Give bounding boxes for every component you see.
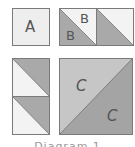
hst-b-2: [96, 8, 134, 46]
label-a: A: [25, 20, 35, 35]
hst-left-bottom: [12, 96, 50, 135]
diagram-caption: Diagram 1: [0, 140, 135, 147]
label-b-lower: B: [66, 29, 75, 42]
hst-b-1: B B: [59, 8, 97, 46]
hst-b-2-dark-triangle: [97, 9, 133, 45]
hst-left-top: [12, 58, 50, 97]
hst-c: C C: [59, 58, 133, 135]
hst-c-dark-triangle: [60, 59, 132, 134]
square-a: A: [12, 8, 50, 46]
label-b-upper: B: [80, 12, 89, 25]
hst-left-top-dark-triangle: [13, 59, 49, 96]
label-c-lower: C: [107, 109, 117, 124]
hst-left-bottom-dark-triangle: [13, 97, 49, 134]
label-c-upper: C: [76, 79, 86, 94]
